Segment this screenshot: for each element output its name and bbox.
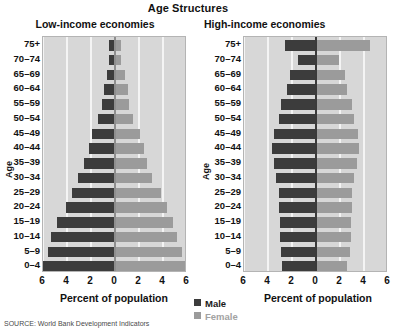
- y-tick-25-29: 25–29: [14, 185, 40, 200]
- plot-area-low-income: [42, 36, 186, 272]
- bar-male-40-44: [272, 143, 316, 154]
- panel-high-income-title: High-income economies: [204, 18, 395, 30]
- bar-female-40-44: [115, 143, 144, 154]
- bar-male-35-39: [84, 158, 115, 169]
- x-tick-low-1: 4: [59, 274, 73, 288]
- bar-female-10-14: [316, 232, 351, 243]
- x-tick-high-5: 4: [356, 274, 370, 288]
- bar-male-10-14: [280, 232, 316, 243]
- y-tick-65-69: 65–69: [215, 67, 241, 82]
- plot-area-high-income: [243, 36, 387, 272]
- y-tick-10-14: 10–14: [14, 229, 40, 244]
- x-tick-high-3: 0: [308, 274, 322, 288]
- bar-male-70-74: [298, 55, 316, 66]
- bar-female-65-69: [115, 70, 125, 81]
- y-tick-70-74: 70–74: [14, 52, 40, 67]
- bar-male-5-9: [281, 247, 316, 258]
- bar-male-0-4: [282, 261, 316, 272]
- bar-female-55-59: [316, 99, 352, 110]
- y-tick-45-49: 45–49: [215, 126, 241, 141]
- bar-male-20-24: [279, 202, 316, 213]
- bar-male-55-59: [102, 99, 115, 110]
- x-tick-high-4: 2: [332, 274, 346, 288]
- y-tick-60-64: 60–64: [14, 81, 40, 96]
- zero-axis-line: [315, 37, 317, 271]
- bar-female-0-4: [115, 261, 186, 272]
- panel-low-income-title: Low-income economies: [0, 18, 190, 30]
- bar-female-70-74: [316, 55, 339, 66]
- bar-female-60-64: [115, 84, 128, 95]
- y-tick-5-9: 5–9: [24, 244, 40, 259]
- bar-female-75+: [115, 40, 121, 51]
- bar-male-5-9: [48, 247, 115, 258]
- x-tick-low-4: 2: [131, 274, 145, 288]
- bar-male-45-49: [274, 129, 316, 140]
- bar-male-10-14: [51, 232, 115, 243]
- legend-label-female: Female: [205, 310, 238, 323]
- bar-female-45-49: [115, 129, 140, 140]
- y-axis-tick-labels-low: 0–45–910–1415–1920–2425–2930–3435–3940–4…: [0, 36, 40, 272]
- page-title: Age Structures: [0, 2, 376, 14]
- bar-female-70-74: [115, 55, 121, 66]
- y-axis-tick-labels-high: 0–45–910–1415–1920–2425–2930–3435–3940–4…: [198, 36, 241, 272]
- bar-female-5-9: [115, 247, 182, 258]
- bar-male-25-29: [72, 188, 115, 199]
- y-tick-50-54: 50–54: [215, 111, 241, 126]
- bar-female-10-14: [115, 232, 177, 243]
- bar-female-45-49: [316, 129, 358, 140]
- bar-female-35-39: [115, 158, 147, 169]
- x-axis-title-low: Percent of population: [42, 292, 186, 304]
- y-tick-75+: 75+: [225, 37, 241, 52]
- y-tick-20-24: 20–24: [14, 199, 40, 214]
- y-tick-65-69: 65–69: [14, 67, 40, 82]
- x-axis-tick-labels-low: 6420246: [42, 274, 186, 288]
- legend-swatch-female-icon: [194, 312, 201, 319]
- y-tick-0-4: 0–4: [225, 258, 241, 273]
- y-tick-50-54: 50–54: [14, 111, 40, 126]
- bar-male-15-19: [57, 217, 115, 228]
- x-tick-high-0: 6: [236, 274, 250, 288]
- bar-male-50-54: [279, 114, 316, 125]
- bar-male-25-29: [279, 188, 316, 199]
- bar-male-20-24: [66, 202, 115, 213]
- y-tick-35-39: 35–39: [215, 155, 241, 170]
- x-tick-low-6: 6: [179, 274, 193, 288]
- x-tick-low-2: 2: [83, 274, 97, 288]
- x-tick-high-1: 4: [260, 274, 274, 288]
- bar-male-35-39: [274, 158, 316, 169]
- y-tick-5-9: 5–9: [225, 244, 241, 259]
- x-tick-low-3: 0: [107, 274, 121, 288]
- bar-female-20-24: [115, 202, 167, 213]
- chart-legend: Male Female: [194, 296, 238, 322]
- y-tick-0-4: 0–4: [24, 258, 40, 273]
- x-tick-low-0: 6: [35, 274, 49, 288]
- bar-male-55-59: [281, 99, 316, 110]
- bar-female-30-34: [316, 173, 354, 184]
- y-tick-30-34: 30–34: [14, 170, 40, 185]
- bar-female-60-64: [316, 84, 347, 95]
- x-axis-title-high: Percent of population: [243, 292, 393, 304]
- x-tick-high-6: 6: [380, 274, 394, 288]
- bar-male-45-49: [92, 129, 115, 140]
- y-tick-25-29: 25–29: [215, 185, 241, 200]
- y-tick-30-34: 30–34: [215, 170, 241, 185]
- legend-item-male: Male: [194, 296, 238, 309]
- bar-male-15-19: [280, 217, 316, 228]
- bar-female-20-24: [316, 202, 352, 213]
- bar-male-75+: [285, 40, 316, 51]
- bar-female-65-69: [316, 70, 345, 81]
- bar-male-40-44: [89, 143, 115, 154]
- y-tick-35-39: 35–39: [14, 155, 40, 170]
- bar-male-30-34: [276, 173, 316, 184]
- bar-female-40-44: [316, 143, 359, 154]
- y-tick-40-44: 40–44: [215, 140, 241, 155]
- legend-item-female: Female: [194, 309, 238, 322]
- bar-male-50-54: [98, 114, 115, 125]
- y-tick-40-44: 40–44: [14, 140, 40, 155]
- bar-female-35-39: [316, 158, 357, 169]
- bar-male-30-34: [78, 173, 115, 184]
- bar-female-5-9: [316, 247, 350, 258]
- bar-female-15-19: [115, 217, 173, 228]
- y-tick-55-59: 55–59: [14, 96, 40, 111]
- bar-female-75+: [316, 40, 370, 51]
